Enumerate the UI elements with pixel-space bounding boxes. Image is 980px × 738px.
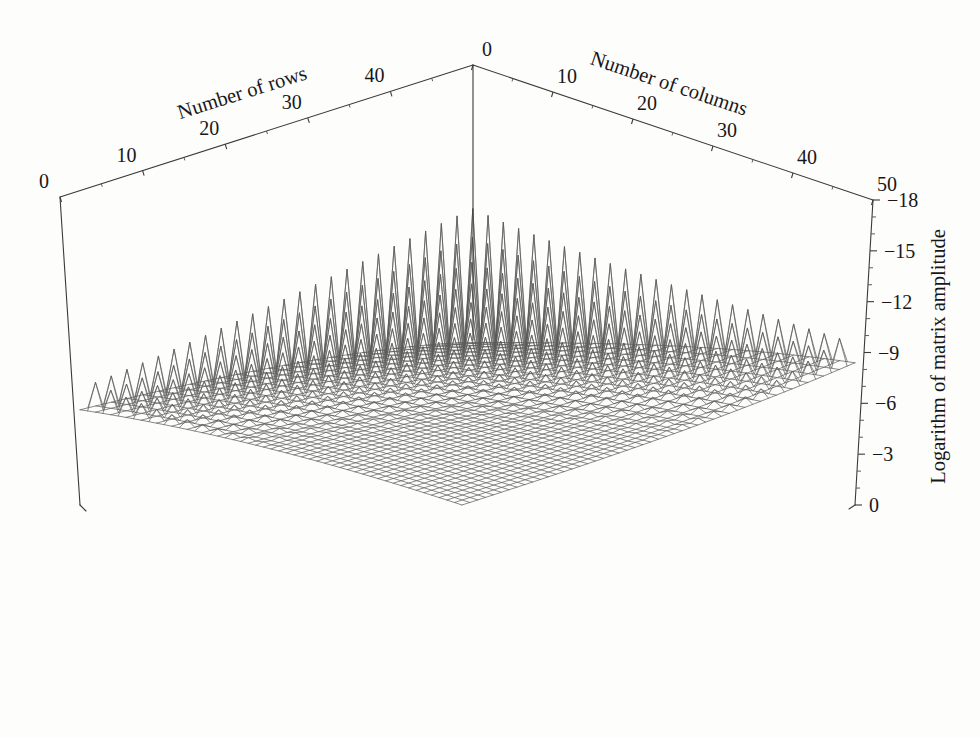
axis-line: [267, 131, 268, 134]
rows-tick-30: 30: [282, 91, 302, 113]
amplitude-tick--15: −15: [884, 240, 915, 262]
axis-line: [349, 105, 350, 108]
axis-line: [672, 133, 673, 136]
amplitude-tick--12: −12: [881, 291, 912, 313]
amplitude-tick-0: 0: [869, 494, 879, 516]
cols-tick-30: 30: [717, 119, 737, 141]
axis-line: [832, 187, 833, 190]
rows-tick-0: 0: [39, 170, 49, 192]
amplitude-tick--6: −6: [875, 392, 896, 414]
surface-plot-svg: 01020304001020304050−18−15−12−9−6−30Numb…: [0, 0, 980, 738]
axis-line: [632, 119, 634, 124]
axis-line: [849, 505, 855, 509]
axis-line: [60, 197, 80, 505]
cols-tick-0: 0: [482, 38, 492, 60]
rows-tick-20: 20: [199, 117, 219, 139]
axis-line: [308, 118, 310, 123]
cols-tick-40: 40: [797, 146, 817, 168]
axis-line: [432, 78, 433, 81]
axis-line: [390, 91, 392, 96]
axis-line: [512, 79, 513, 82]
amplitude-axis-title: Logarithm of matrix amplitude: [927, 229, 950, 483]
cols-tick-20: 20: [637, 92, 657, 114]
axis-line: [712, 146, 714, 151]
axis-line: [143, 171, 145, 176]
axis-line: [552, 92, 554, 97]
columns-axis-title: Number of columns: [588, 47, 750, 120]
amplitude-tick--18: −18: [887, 189, 918, 211]
axis-line: [592, 106, 593, 109]
amplitude-tick--3: −3: [872, 443, 893, 465]
axis-line: [80, 505, 86, 511]
axis-line: [752, 160, 753, 163]
axis-line: [792, 173, 794, 178]
axis-line: [101, 184, 102, 187]
amplitude-tick--9: −9: [878, 342, 899, 364]
axes-frame: [60, 65, 880, 511]
axis-line: [184, 157, 185, 160]
rows-tick-10: 10: [117, 144, 137, 166]
axis-line: [225, 144, 227, 149]
cols-tick-10: 10: [557, 65, 577, 87]
figure-3d-surface-plot: 01020304001020304050−18−15−12−9−6−30Numb…: [0, 0, 980, 738]
rows-tick-40: 40: [364, 64, 384, 86]
mesh-surface: [80, 209, 855, 505]
